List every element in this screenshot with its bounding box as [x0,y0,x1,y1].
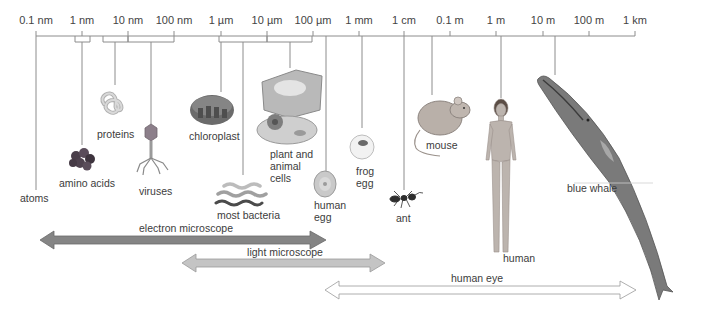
tick-label-1nm: 1 nm [70,14,94,26]
label-most-bacteria: most bacteria [217,209,280,221]
chloroplast-icon [190,95,234,125]
label-plant-animal-cells: plant and animal cells [270,148,313,184]
human-egg-icon [314,171,336,197]
plant-animal-cells-icon [257,70,322,144]
label-light-microscope: light microscope [247,246,323,258]
tick-label-100nm: 100 nm [156,14,193,26]
tick-label-100um: 100 µm [295,14,332,26]
proteins-icon [102,94,121,113]
label-mouse: mouse [426,139,458,151]
label-blue-whale: blue whale [567,182,617,194]
size-scale-diagram: 0.1 nm 1 nm 10 nm 100 nm 1 µm 10 µm 100 … [0,0,709,314]
label-viruses: viruses [139,185,172,197]
tick-label-0.1nm: 0.1 nm [19,14,53,26]
tick-label-1m: 1 m [487,14,505,26]
tick-label-10nm: 10 nm [113,14,144,26]
bacteria-icon [216,184,266,205]
tick-label-1cm: 1 cm [392,14,416,26]
frog-egg-icon [350,135,374,159]
label-human-eye: human eye [451,272,503,284]
virus-icon [137,124,168,175]
tick-label-1km: 1 km [623,14,647,26]
scale-axis-lines [0,0,709,314]
label-proteins: proteins [97,128,134,140]
label-ant: ant [396,212,411,224]
tick-label-100m: 100 m [574,14,605,26]
label-atoms: atoms [20,192,49,204]
tick-label-0.1m: 0.1 m [436,14,464,26]
label-electron-microscope: electron microscope [139,222,233,234]
amino-acids-icon [69,148,95,171]
tick-label-1um: 1 µm [209,14,234,26]
human-icon [486,99,516,252]
label-frog-egg: frog egg [356,165,374,189]
ant-icon [390,191,423,208]
label-chloroplast: chloroplast [189,130,240,142]
label-human-egg: human egg [314,199,346,223]
label-amino-acids: amino acids [59,177,115,189]
label-human: human [503,252,535,264]
tick-label-1mm: 1 mm [345,14,373,26]
tick-label-10m: 10 m [531,14,555,26]
tick-label-10um: 10 µm [252,14,283,26]
